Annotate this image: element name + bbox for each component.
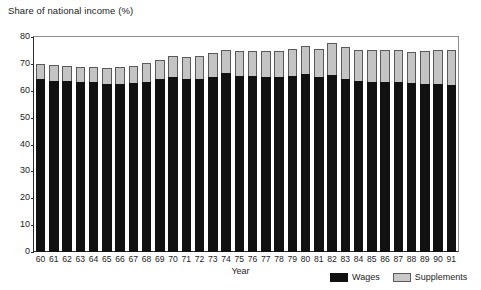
- bar-segment-wages[interactable]: [221, 73, 230, 252]
- bar-group[interactable]: [129, 66, 138, 252]
- bar-segment-wages[interactable]: [76, 82, 85, 252]
- bar-segment-supplements[interactable]: [89, 67, 98, 83]
- bar-segment-supplements[interactable]: [354, 50, 363, 81]
- bar-segment-wages[interactable]: [115, 84, 124, 252]
- bar-segment-wages[interactable]: [394, 82, 403, 252]
- bar-segment-wages[interactable]: [327, 75, 336, 252]
- bar-segment-supplements[interactable]: [129, 66, 138, 83]
- bar-group[interactable]: [115, 67, 124, 252]
- bar-segment-supplements[interactable]: [327, 43, 336, 75]
- bar-segment-supplements[interactable]: [261, 51, 270, 77]
- bar-segment-wages[interactable]: [380, 82, 389, 252]
- bar-segment-supplements[interactable]: [380, 50, 389, 82]
- bar-segment-wages[interactable]: [288, 76, 297, 252]
- bar-group[interactable]: [261, 51, 270, 252]
- bars-layer: [34, 37, 458, 252]
- bar-group[interactable]: [208, 53, 217, 252]
- bar-segment-supplements[interactable]: [115, 67, 124, 83]
- bar-group[interactable]: [288, 49, 297, 252]
- bar-segment-wages[interactable]: [248, 76, 257, 252]
- bar-segment-wages[interactable]: [447, 85, 456, 252]
- bar-group[interactable]: [76, 67, 85, 252]
- bar-segment-supplements[interactable]: [301, 46, 310, 74]
- bar-segment-wages[interactable]: [129, 83, 138, 252]
- bar-segment-supplements[interactable]: [341, 47, 350, 79]
- bar-segment-wages[interactable]: [407, 83, 416, 252]
- bar-segment-wages[interactable]: [155, 79, 164, 252]
- bar-segment-wages[interactable]: [314, 77, 323, 252]
- bar-segment-wages[interactable]: [354, 81, 363, 252]
- x-tick-label: 77: [259, 254, 273, 264]
- bar-segment-wages[interactable]: [341, 79, 350, 252]
- bar-group[interactable]: [235, 51, 244, 252]
- bar-segment-supplements[interactable]: [221, 50, 230, 73]
- bar-segment-wages[interactable]: [36, 79, 45, 252]
- legend-item-supplements: Supplements: [393, 272, 468, 282]
- bar-group[interactable]: [341, 47, 350, 252]
- bar-group[interactable]: [195, 56, 204, 252]
- bar-group[interactable]: [142, 63, 151, 252]
- bar-segment-wages[interactable]: [420, 84, 429, 252]
- bar-segment-wages[interactable]: [49, 81, 58, 252]
- bar-segment-wages[interactable]: [235, 76, 244, 252]
- bar-segment-supplements[interactable]: [62, 66, 71, 81]
- bar-segment-supplements[interactable]: [36, 64, 45, 79]
- bar-segment-wages[interactable]: [261, 77, 270, 252]
- bar-segment-wages[interactable]: [168, 77, 177, 252]
- bar-segment-wages[interactable]: [301, 74, 310, 252]
- x-tick-label: 71: [179, 254, 193, 264]
- bar-segment-wages[interactable]: [89, 82, 98, 252]
- bar-segment-supplements[interactable]: [274, 51, 283, 77]
- bar-group[interactable]: [221, 50, 230, 252]
- bar-group[interactable]: [354, 50, 363, 252]
- bar-group[interactable]: [182, 57, 191, 252]
- bar-segment-supplements[interactable]: [195, 56, 204, 79]
- bar-segment-supplements[interactable]: [182, 57, 191, 79]
- bar-segment-wages[interactable]: [195, 79, 204, 252]
- bar-segment-wages[interactable]: [62, 81, 71, 252]
- bar-segment-wages[interactable]: [142, 82, 151, 252]
- bar-segment-wages[interactable]: [208, 77, 217, 252]
- bar-group[interactable]: [102, 68, 111, 252]
- bar-group[interactable]: [314, 49, 323, 252]
- bar-segment-supplements[interactable]: [433, 50, 442, 84]
- bar-segment-supplements[interactable]: [420, 51, 429, 84]
- bar-segment-supplements[interactable]: [168, 56, 177, 76]
- bar-segment-supplements[interactable]: [208, 53, 217, 77]
- bar-segment-supplements[interactable]: [248, 51, 257, 76]
- bar-segment-supplements[interactable]: [102, 68, 111, 84]
- bar-segment-supplements[interactable]: [142, 63, 151, 82]
- bar-group[interactable]: [433, 50, 442, 252]
- bar-segment-supplements[interactable]: [76, 67, 85, 83]
- bar-segment-supplements[interactable]: [367, 50, 376, 81]
- bar-group[interactable]: [407, 52, 416, 252]
- bar-group[interactable]: [447, 50, 456, 252]
- bar-group[interactable]: [274, 51, 283, 252]
- bar-segment-supplements[interactable]: [407, 52, 416, 83]
- bar-group[interactable]: [394, 50, 403, 252]
- bar-group[interactable]: [248, 51, 257, 252]
- bar-segment-wages[interactable]: [182, 79, 191, 252]
- bar-group[interactable]: [49, 65, 58, 252]
- bar-group[interactable]: [420, 51, 429, 252]
- bar-segment-wages[interactable]: [274, 77, 283, 252]
- bar-segment-supplements[interactable]: [288, 49, 297, 76]
- bar-segment-supplements[interactable]: [447, 50, 456, 85]
- bar-segment-supplements[interactable]: [394, 50, 403, 81]
- bar-group[interactable]: [367, 50, 376, 252]
- bar-segment-wages[interactable]: [102, 84, 111, 252]
- bar-segment-supplements[interactable]: [314, 49, 323, 77]
- bar-segment-supplements[interactable]: [235, 51, 244, 76]
- bar-segment-wages[interactable]: [367, 82, 376, 252]
- bar-group[interactable]: [155, 60, 164, 252]
- bar-group[interactable]: [36, 64, 45, 252]
- bar-segment-supplements[interactable]: [49, 65, 58, 81]
- bar-group[interactable]: [89, 67, 98, 252]
- bar-group[interactable]: [301, 46, 310, 252]
- bar-group[interactable]: [380, 50, 389, 252]
- bar-group[interactable]: [62, 66, 71, 252]
- bar-segment-wages[interactable]: [433, 84, 442, 252]
- bar-segment-supplements[interactable]: [155, 60, 164, 79]
- bar-group[interactable]: [168, 56, 177, 252]
- bar-group[interactable]: [327, 43, 336, 252]
